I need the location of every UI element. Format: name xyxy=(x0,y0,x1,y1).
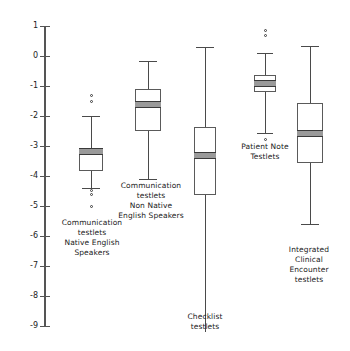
y-axis-tick-label: -8 xyxy=(12,292,38,300)
y-axis-tick xyxy=(40,116,50,117)
category-label-line: Communication xyxy=(104,181,198,191)
category-label-line: Integrated xyxy=(268,245,350,255)
y-axis-tick-label: -1 xyxy=(12,82,38,90)
whisker-cap-lower xyxy=(301,224,319,225)
y-axis-tick-label: -6 xyxy=(12,232,38,240)
y-axis-tick xyxy=(40,266,50,267)
category-label-line: testlets xyxy=(46,228,138,238)
category-label-communication-non-native: Communication testlets Non Native Englis… xyxy=(104,181,198,221)
category-label-line: Patient Note xyxy=(220,142,310,152)
category-label-checklist: Checklist testlets xyxy=(163,312,247,332)
median-line xyxy=(135,101,161,108)
y-axis-tick xyxy=(40,26,50,27)
category-label-line: testlets xyxy=(104,191,198,201)
whisker-lower xyxy=(310,163,311,224)
box-iqr xyxy=(79,148,103,171)
outlier-point xyxy=(264,29,267,32)
outlier-point xyxy=(90,205,93,208)
y-axis-tick xyxy=(40,56,50,57)
whisker-upper xyxy=(91,116,92,148)
y-axis-tick xyxy=(40,206,50,207)
y-axis-tick-label: -7 xyxy=(12,262,38,270)
category-label-line: Checklist xyxy=(163,312,247,322)
whisker-lower xyxy=(91,171,92,188)
y-axis-tick xyxy=(40,146,50,147)
whisker-cap-upper xyxy=(196,47,214,48)
median-line xyxy=(254,80,276,87)
whisker-cap-lower xyxy=(257,133,273,134)
y-axis-tick xyxy=(40,296,50,297)
y-axis-tick-label: -9 xyxy=(12,322,38,330)
category-label-line: Encounter xyxy=(268,265,350,275)
category-label-line: Speakers xyxy=(46,248,138,258)
category-label-integrated-clinical: Integrated Clinical Encounter testlets xyxy=(268,245,350,285)
box-iqr xyxy=(135,89,161,131)
outlier-point xyxy=(90,193,93,196)
whisker-upper xyxy=(265,53,266,75)
category-label-line: Clinical xyxy=(268,255,350,265)
outlier-point xyxy=(90,100,93,103)
outlier-point xyxy=(90,94,93,97)
whisker-upper xyxy=(310,46,311,103)
whisker-cap-upper xyxy=(257,53,273,54)
whisker-cap-upper xyxy=(139,61,157,62)
y-axis-tick-label: -3 xyxy=(12,142,38,150)
y-axis-tick-label: -5 xyxy=(12,202,38,210)
y-axis-tick-label: 0 xyxy=(12,52,38,60)
category-label-patient-note: Patient Note Testlets xyxy=(220,142,310,162)
whisker-cap-upper xyxy=(82,116,100,117)
median-line xyxy=(194,152,216,159)
category-label-line: English Speakers xyxy=(104,211,198,221)
whisker-lower xyxy=(148,131,149,179)
whisker-upper xyxy=(205,47,206,127)
category-label-communication-native: Communication testlets Native English Sp… xyxy=(46,218,138,258)
category-label-line: Native English xyxy=(46,238,138,248)
category-label-line: testlets xyxy=(268,275,350,285)
y-axis-tick xyxy=(40,326,50,327)
whisker-cap-upper xyxy=(301,46,319,47)
y-axis-tick-label: -2 xyxy=(12,112,38,120)
whisker-cap-lower xyxy=(139,179,157,180)
median-line xyxy=(297,130,323,137)
outlier-point xyxy=(264,138,267,141)
whisker-lower xyxy=(265,92,266,133)
category-label-line: Testlets xyxy=(220,152,310,162)
whisker-upper xyxy=(148,61,149,90)
whisker-cap-lower xyxy=(82,188,100,189)
outlier-point xyxy=(90,189,93,192)
y-axis-tick xyxy=(40,176,50,177)
category-label-line: Non Native xyxy=(104,201,198,211)
y-axis-tick-label: 1 xyxy=(12,22,38,30)
category-label-line: testlets xyxy=(163,322,247,332)
y-axis-tick-label: -4 xyxy=(12,172,38,180)
box-plot-figure: 10-1-2-3-4-5-6-7-8-9 Communication testl… xyxy=(0,0,350,351)
outlier-point xyxy=(264,34,267,37)
y-axis-tick xyxy=(40,86,50,87)
box-iqr xyxy=(254,75,276,92)
median-line xyxy=(79,148,103,155)
box-plot-series xyxy=(0,0,350,351)
